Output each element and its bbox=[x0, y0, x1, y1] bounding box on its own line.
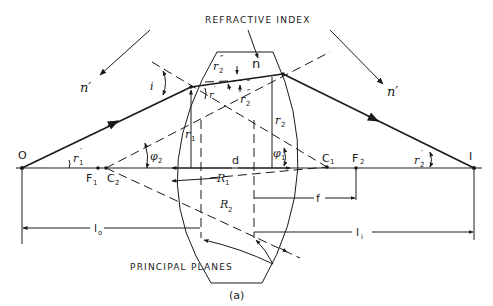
svg-text:R: R bbox=[216, 172, 225, 185]
radius-1-label: R 1 bbox=[216, 172, 229, 187]
svg-text:2: 2 bbox=[228, 206, 232, 214]
incident-ray bbox=[22, 87, 191, 168]
object-point bbox=[20, 166, 24, 170]
svg-text:φ: φ bbox=[150, 150, 158, 163]
svg-text:F: F bbox=[352, 152, 358, 165]
angle-i-arc bbox=[163, 71, 166, 95]
svg-text:′: ′ bbox=[421, 149, 423, 159]
angle-r2-double-prime-top-label: r 2 ″ bbox=[213, 54, 224, 75]
image-distance-label: l i bbox=[356, 226, 363, 241]
svg-text:R: R bbox=[219, 198, 228, 211]
svg-text:i: i bbox=[361, 233, 363, 241]
svg-text:C: C bbox=[107, 172, 115, 185]
svg-text:2: 2 bbox=[115, 179, 119, 187]
svg-text:1: 1 bbox=[191, 135, 195, 143]
svg-text:C: C bbox=[322, 152, 330, 165]
medium-right-label: n′ bbox=[387, 84, 398, 99]
svg-text:2: 2 bbox=[219, 67, 223, 75]
thickness-label: d bbox=[232, 154, 239, 167]
emergent-ray bbox=[283, 74, 474, 168]
medium-arrow-left bbox=[100, 30, 150, 75]
refraction-point-2 bbox=[281, 72, 285, 76]
svg-text:2: 2 bbox=[246, 100, 250, 108]
radius-2-label: R 2 bbox=[219, 198, 232, 214]
medium-left-label: n′ bbox=[80, 80, 91, 95]
svg-text:2: 2 bbox=[360, 158, 364, 166]
image-point bbox=[472, 166, 476, 170]
svg-text:1: 1 bbox=[79, 159, 83, 167]
height-r1-label: r 1 bbox=[185, 128, 195, 143]
refractive-index-arrow bbox=[248, 30, 258, 58]
focal-1-label: F 1 bbox=[86, 172, 97, 187]
normal-line-1 bbox=[152, 62, 327, 167]
angle-phi1-label: φ 1 bbox=[273, 147, 285, 162]
focal-2-label: F 2 bbox=[352, 152, 364, 166]
center-point-2 bbox=[104, 166, 108, 170]
svg-text:1: 1 bbox=[93, 179, 97, 187]
lens-medium-label: n bbox=[252, 56, 260, 71]
svg-text:2: 2 bbox=[158, 157, 162, 165]
principal-plane-leader-1 bbox=[204, 240, 273, 264]
angle-i-label: i bbox=[150, 80, 154, 93]
angle-r2-double-prime-mid-label: r 2 ″ bbox=[240, 88, 251, 108]
radius-2-line bbox=[106, 168, 300, 258]
svg-text:l: l bbox=[94, 222, 97, 235]
center-1-label: C 1 bbox=[322, 152, 334, 166]
angle-r2-prime-arc bbox=[430, 152, 432, 167]
svg-text:φ: φ bbox=[273, 147, 281, 160]
center-point-1 bbox=[325, 165, 329, 169]
svg-text:′: ′ bbox=[214, 86, 216, 95]
image-label: I bbox=[469, 150, 472, 163]
medium-arrow-right bbox=[330, 30, 383, 84]
radius-1-line bbox=[210, 167, 327, 178]
focal-point-1 bbox=[96, 166, 100, 170]
svg-text:1: 1 bbox=[330, 158, 334, 166]
angle-r-prime-label: r ′ bbox=[209, 86, 216, 100]
svg-text:1: 1 bbox=[281, 154, 285, 162]
angle-r1-prime-label: r 1 ′ bbox=[73, 147, 83, 167]
refractive-index-label: REFRACTIVE INDEX bbox=[205, 15, 311, 25]
svg-text:1: 1 bbox=[225, 179, 229, 187]
height-r2-label: r 2 bbox=[275, 114, 285, 129]
svg-text:2: 2 bbox=[420, 161, 424, 169]
object-distance-label: l o bbox=[94, 222, 102, 237]
svg-text:o: o bbox=[98, 229, 102, 237]
svg-text:″: ″ bbox=[220, 54, 224, 64]
angle-r2-prime-label: r 2 ′ bbox=[414, 149, 424, 169]
svg-text:F: F bbox=[86, 172, 92, 185]
focal-length-label: f bbox=[316, 192, 321, 205]
object-label: O bbox=[18, 149, 27, 162]
svg-text:′: ′ bbox=[80, 147, 82, 157]
svg-text:2: 2 bbox=[281, 121, 285, 129]
svg-text:l: l bbox=[356, 226, 359, 239]
refraction-point-1 bbox=[189, 85, 193, 89]
principal-planes-label: PRINCIPAL PLANES bbox=[130, 262, 233, 272]
angle-r1-prime-arc bbox=[69, 160, 70, 168]
focal-point-2 bbox=[354, 166, 358, 170]
center-2-label: C 2 bbox=[107, 172, 119, 187]
figure-caption: (a) bbox=[229, 289, 244, 302]
thick-lens-diagram: REFRACTIVE INDEX PRINCIPAL PLANES (a) n′… bbox=[0, 0, 493, 306]
angle-phi2-label: φ 2 bbox=[150, 150, 162, 165]
